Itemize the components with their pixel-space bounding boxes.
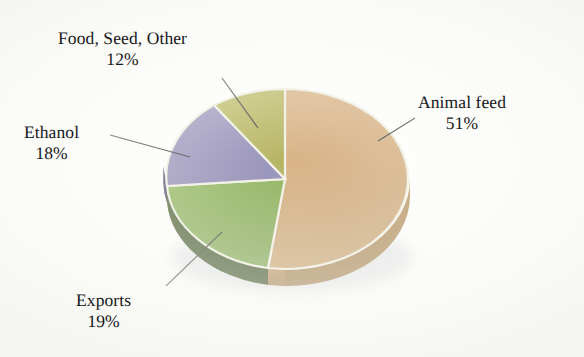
slice-label-food-seed-other: Food, Seed, Other 12% [58, 28, 187, 71]
slice-label-animal-feed: Animal feed 51% [418, 92, 506, 135]
pie-chart: Food, Seed, Other 12% Ethanol 18% Animal… [0, 0, 584, 357]
slice-label-food-seed-other-name: Food, Seed, Other [58, 28, 187, 48]
slice-label-food-seed-other-percent: 12% [58, 49, 187, 70]
slice-side-animal-feed-left [268, 268, 285, 286]
slice-label-exports-percent: 19% [76, 311, 131, 332]
slice-label-exports: Exports 19% [76, 290, 131, 333]
slice-label-animal-feed-percent: 51% [418, 113, 506, 134]
slice-label-ethanol: Ethanol 18% [24, 122, 79, 165]
slice-label-animal-feed-name: Animal feed [418, 92, 506, 112]
slice-label-ethanol-percent: 18% [24, 143, 79, 164]
slice-label-ethanol-name: Ethanol [24, 122, 79, 142]
slice-label-exports-name: Exports [76, 290, 131, 310]
